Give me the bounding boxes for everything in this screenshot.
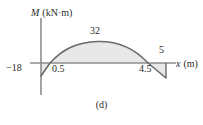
zero-crossing-left-label: 0.5	[52, 64, 65, 74]
start-moment-label: −18	[6, 63, 22, 73]
x-axis-label: x(m)	[176, 59, 198, 69]
beam-end-label: 5	[159, 45, 164, 55]
zero-crossing-right-label: 4.5	[139, 64, 152, 74]
bending-moment-diagram: M(kN·m) x(m) 32 −18 0.5 4.5 5 (d)	[0, 0, 203, 125]
y-axis-label: M(kN·m)	[31, 8, 72, 18]
x-axis-symbol: x	[176, 58, 180, 69]
y-axis-units: (kN·m)	[42, 7, 72, 18]
x-axis-units: (m)	[183, 58, 197, 69]
positive-moment-fill	[50, 41, 148, 63]
peak-moment-label: 32	[90, 26, 100, 36]
figure-caption: (d)	[0, 100, 203, 110]
y-axis-symbol: M	[31, 7, 39, 18]
